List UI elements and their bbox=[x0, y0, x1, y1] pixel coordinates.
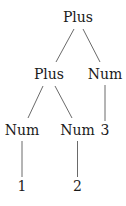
syntax-tree: Plus Plus Num Num Num 3 1 2 bbox=[0, 0, 126, 206]
edge-plus-num-left bbox=[28, 86, 43, 118]
edges bbox=[22, 29, 105, 177]
node-root-plus: Plus bbox=[63, 9, 93, 25]
leaf-3: 3 bbox=[101, 122, 110, 138]
node-plus: Plus bbox=[34, 66, 64, 82]
edge-plus-num-right bbox=[55, 86, 72, 118]
leaf-1: 1 bbox=[18, 178, 27, 194]
node-num-3-parent: Num bbox=[88, 66, 123, 82]
node-num-2-parent: Num bbox=[60, 122, 95, 138]
edge-root-plus bbox=[56, 29, 74, 62]
leaf-2: 2 bbox=[73, 178, 82, 194]
edge-root-num bbox=[83, 29, 100, 62]
node-num-1-parent: Num bbox=[5, 122, 40, 138]
